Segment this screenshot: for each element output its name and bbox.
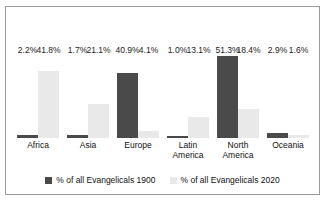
bar-group-asia: 1.7% 21.1% Asia: [64, 56, 112, 138]
bar-africa-1900[interactable]: 2.2%: [17, 56, 38, 138]
bar-rect: [288, 135, 309, 138]
bar-value-label: 18.4%: [236, 46, 260, 55]
bar-value-label: 2.2%: [18, 46, 37, 55]
plot-area: 2.2% 41.8% Africa 1.7% 21.1%: [6, 7, 319, 194]
bar-rect: [188, 117, 209, 138]
legend-item-1900[interactable]: % of all Evangelicals 1900: [45, 176, 155, 185]
bar-africa-2020[interactable]: 41.8%: [38, 56, 59, 138]
bar-rect: [117, 73, 138, 138]
bar-latin-america-2020[interactable]: 13.1%: [188, 56, 209, 138]
bar-north-america-2020[interactable]: 18.4%: [238, 56, 259, 138]
bar-rect: [267, 133, 288, 138]
bar-rect: [88, 104, 109, 138]
bar-value-label: 13.1%: [186, 46, 210, 55]
bar-group-north-america: 51.3% 18.4% North America: [214, 56, 262, 138]
bar-rect: [217, 56, 238, 138]
bar-rect: [17, 135, 38, 139]
category-label-asia: Asia: [64, 141, 112, 151]
bar-group-europe: 40.9% 4.1% Europe: [114, 56, 162, 138]
bar-value-label: 21.1%: [86, 46, 110, 55]
bar-value-label: 1.7%: [68, 46, 87, 55]
bar-rect: [167, 136, 188, 138]
bar-oceania-2020[interactable]: 1.6%: [288, 56, 309, 138]
bar-value-label: 4.1%: [139, 46, 158, 55]
bar-value-label: 1.6%: [289, 46, 308, 55]
legend-swatch-icon: [170, 177, 177, 184]
bar-value-label: 1.0%: [168, 46, 187, 55]
category-label-africa: Africa: [14, 141, 62, 151]
bar-europe-2020[interactable]: 4.1%: [138, 56, 159, 138]
bar-north-america-1900[interactable]: 51.3%: [217, 56, 238, 138]
bar-rect: [138, 131, 159, 138]
chart-legend: % of all Evangelicals 1900 % of all Evan…: [6, 176, 319, 185]
chart-frame: 2.2% 41.8% Africa 1.7% 21.1%: [5, 6, 320, 195]
bar-value-label: 41.8%: [36, 46, 60, 55]
legend-swatch-icon: [45, 177, 52, 184]
bar-latin-america-1900[interactable]: 1.0%: [167, 56, 188, 138]
bar-group-latin-america: 1.0% 13.1% Latin America: [164, 56, 212, 138]
bar-asia-1900[interactable]: 1.7%: [67, 56, 88, 138]
bar-rect: [238, 109, 259, 138]
bar-asia-2020[interactable]: 21.1%: [88, 56, 109, 138]
bar-rect: [38, 71, 59, 138]
legend-item-2020[interactable]: % of all Evangelicals 2020: [170, 176, 280, 185]
category-label-europe: Europe: [114, 141, 162, 151]
bar-group-oceania: 2.9% 1.6% Oceania: [264, 56, 312, 138]
legend-label: % of all Evangelicals 2020: [181, 176, 280, 185]
bar-rect: [67, 135, 88, 138]
legend-label: % of all Evangelicals 1900: [56, 176, 155, 185]
category-label-north-america: North America: [214, 141, 262, 160]
category-label-latin-america: Latin America: [164, 141, 212, 160]
bar-value-label: 40.9%: [115, 46, 139, 55]
bar-group-africa: 2.2% 41.8% Africa: [14, 56, 62, 138]
bar-oceania-1900[interactable]: 2.9%: [267, 56, 288, 138]
bar-value-label: 2.9%: [268, 46, 287, 55]
category-label-oceania: Oceania: [264, 141, 312, 151]
bar-europe-1900[interactable]: 40.9%: [117, 56, 138, 138]
